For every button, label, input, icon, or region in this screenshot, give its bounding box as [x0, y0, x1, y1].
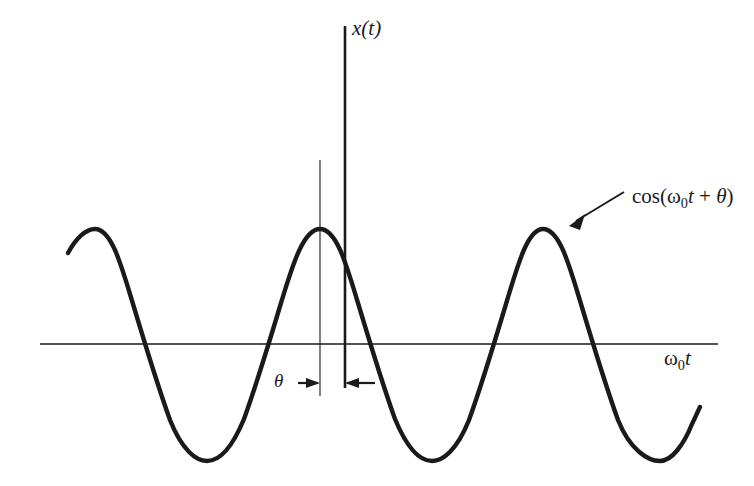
waveform-canvas: [0, 0, 754, 486]
phase-symbol-text: θ: [274, 370, 283, 391]
curve-label-omega: ω: [667, 184, 681, 208]
curve-label-prefix: cos(: [632, 184, 667, 208]
cosine-waveform: [68, 229, 700, 461]
x-axis-label: ω0t: [664, 348, 691, 372]
curve-label-suffix: ): [726, 184, 733, 208]
curve-label-plus: +: [694, 184, 716, 208]
phase-arrow-left-head: [306, 378, 320, 388]
curve-callout-arrow-head: [569, 214, 585, 230]
curve-label-theta: θ: [716, 184, 726, 208]
phase-label: θ: [274, 371, 283, 390]
curve-label-subscript: 0: [681, 195, 688, 211]
curve-callout-label: cos(ω0t + θ): [632, 186, 733, 210]
y-axis-label-text: x(t): [352, 16, 381, 40]
x-axis-time-symbol: t: [685, 346, 691, 370]
waveform-figure: x(t) ω0t θ cos(ω0t + θ): [0, 0, 754, 486]
phase-arrow-right-head: [345, 378, 359, 388]
x-axis-omega-symbol: ω: [664, 346, 678, 370]
y-axis-label: x(t): [352, 18, 381, 39]
x-axis-subscript: 0: [678, 357, 685, 373]
